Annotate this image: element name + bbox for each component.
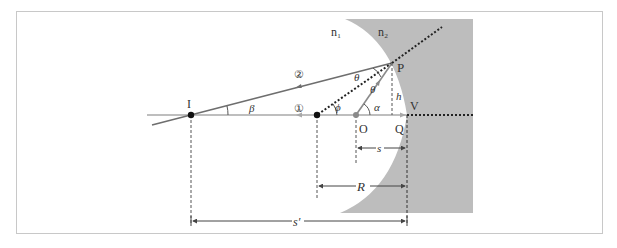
label-ray-1: ① (294, 102, 304, 114)
label-ray-2: ② (294, 68, 304, 80)
label-P: P (397, 60, 404, 75)
angle-beta-arc (227, 106, 228, 115)
label-theta-lower: θ (370, 83, 376, 95)
label-Q: Q (395, 122, 404, 136)
label-R: R (356, 179, 365, 194)
label-I: I (187, 97, 191, 111)
label-n1: n₁ (331, 25, 341, 39)
label-s-prime: s′ (293, 215, 301, 229)
point-O (353, 112, 359, 118)
label-s: s (377, 142, 381, 154)
point-I (188, 112, 194, 118)
ray-2-arrow-icon (295, 84, 302, 88)
axis-arrow-right-icon (400, 113, 406, 118)
label-phi: ϕ (335, 101, 341, 113)
label-theta-upper: θ (354, 71, 360, 83)
angle-alpha-arc (364, 104, 370, 115)
label-V: V (410, 99, 419, 113)
label-beta: β (248, 102, 255, 114)
label-n2: n₂ (378, 25, 388, 39)
label-O: O (359, 122, 368, 136)
point-C (314, 112, 320, 118)
label-alpha: α (374, 101, 380, 113)
refraction-diagram: n₁ n₂ P I O Q V θ θ ϕ α β h ① ② s R s′ (0, 0, 617, 248)
label-h: h (396, 90, 402, 102)
